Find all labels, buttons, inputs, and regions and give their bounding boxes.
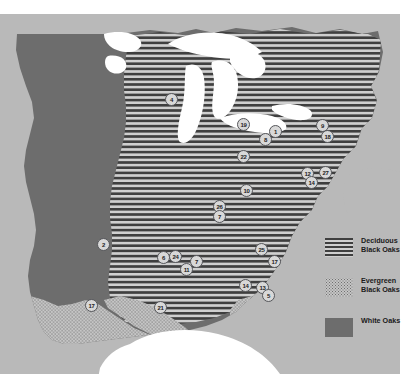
legend-swatch-evergreen-icon xyxy=(325,278,353,297)
site-marker[interactable]: 25 xyxy=(255,243,268,256)
site-marker[interactable]: 8 xyxy=(259,133,272,146)
legend-item-evergreen-black-oaks: Evergreen Black Oaks xyxy=(325,278,400,308)
legend-label-deciduous-line2: Black Oaks xyxy=(361,246,405,255)
site-marker[interactable]: 14 xyxy=(305,176,318,189)
legend-label-white-oaks: White Oaks xyxy=(361,317,405,326)
site-marker[interactable]: 14 xyxy=(239,279,252,292)
site-marker[interactable]: 22 xyxy=(237,150,250,163)
legend-label-evergreen: Evergreen Black Oaks xyxy=(361,277,405,294)
legend-label-white-oaks-line1: White Oaks xyxy=(361,317,405,326)
site-marker[interactable]: 19 xyxy=(237,118,250,131)
site-marker[interactable]: 21 xyxy=(154,301,167,314)
legend-item-deciduous-black-oaks: Deciduous Black Oaks xyxy=(325,238,400,268)
site-marker[interactable]: 17 xyxy=(85,299,98,312)
site-marker[interactable]: 24 xyxy=(169,250,182,263)
legend-swatch-deciduous-icon xyxy=(325,238,353,257)
legend-label-evergreen-line2: Black Oaks xyxy=(361,286,405,295)
legend: Deciduous Black Oaks Evergreen Black Oak… xyxy=(325,238,400,348)
site-marker[interactable]: 11 xyxy=(180,263,193,276)
site-marker[interactable]: 5 xyxy=(262,289,275,302)
legend-swatch-white-oaks-icon xyxy=(325,318,353,337)
site-marker[interactable]: 18 xyxy=(321,130,334,143)
site-marker[interactable]: 2 xyxy=(97,238,110,251)
site-marker[interactable]: 17 xyxy=(268,255,281,268)
legend-item-white-oaks: White Oaks xyxy=(325,318,400,348)
site-marker[interactable]: 4 xyxy=(165,93,178,106)
site-marker[interactable]: 7 xyxy=(213,210,226,223)
site-marker[interactable]: 27 xyxy=(319,166,332,179)
legend-label-deciduous: Deciduous Black Oaks xyxy=(361,237,405,254)
site-marker[interactable]: 10 xyxy=(240,184,253,197)
site-marker[interactable]: 6 xyxy=(157,251,170,264)
